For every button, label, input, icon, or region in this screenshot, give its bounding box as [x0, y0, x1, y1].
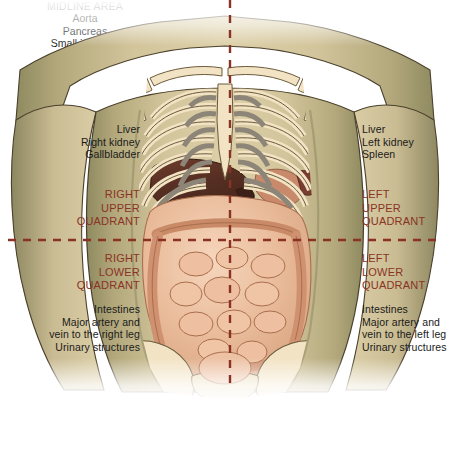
quadrant-label-right-upper: RIGHT UPPER QUADRANT: [12, 188, 140, 229]
organ-list-right-lower-quadrant: Intestines Major artery and vein to the …: [12, 303, 140, 353]
diagram-canvas: Liver Right kidney Gallbladder RIGHT UPP…: [0, 0, 450, 469]
internal-anatomy: [126, 66, 324, 404]
quadrant-label-left-lower: LEFT LOWER QUADRANT: [362, 252, 450, 293]
torso-anatomy-illustration: [0, 0, 450, 469]
organ-list-left-lower-quadrant: Intestines Major artery and vein to the …: [362, 303, 450, 353]
quadrant-label-left-upper: LEFT UPPER QUADRANT: [362, 188, 450, 229]
organ-list-right-upper-quadrant: Liver Right kidney Gallbladder: [12, 123, 140, 161]
quadrant-label-right-lower: RIGHT LOWER QUADRANT: [12, 252, 140, 293]
organ-list-left-upper-quadrant: Liver Left kidney Spleen: [362, 123, 450, 161]
